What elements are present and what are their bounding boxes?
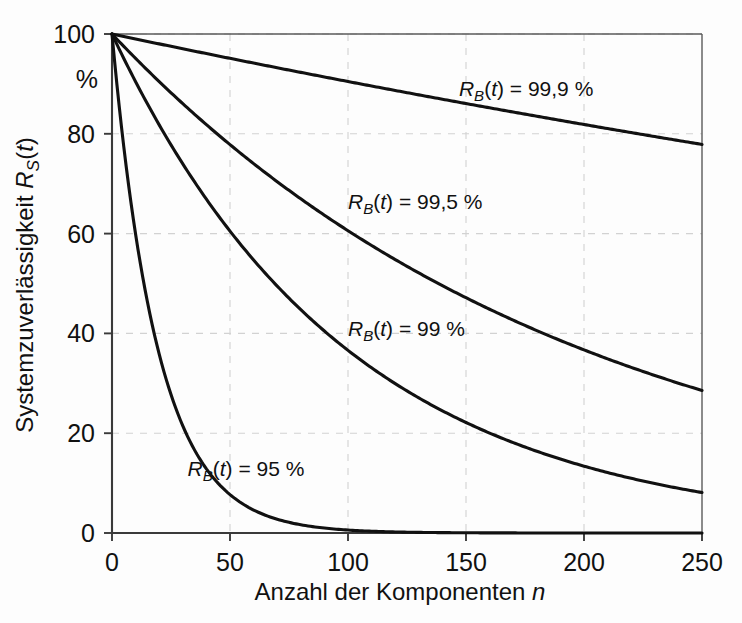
y-tick-label: 40 (67, 319, 95, 347)
x-tick-label: 150 (445, 548, 487, 576)
x-tick-label: 100 (327, 548, 369, 576)
y-axis-unit-label: % (76, 65, 98, 93)
y-tick-label: 20 (67, 419, 95, 447)
x-tick-label: 50 (216, 548, 244, 576)
y-tick-label: 80 (67, 120, 95, 148)
x-tick-label: 0 (105, 548, 119, 576)
x-axis-title: Anzahl der Komponenten n (255, 578, 546, 605)
y-tick-label: 60 (67, 220, 95, 248)
x-tick-label: 250 (681, 548, 723, 576)
reliability-line-chart: 020406080100050100150200250 RB(t) = 99,9… (0, 0, 742, 623)
y-tick-label: 0 (81, 519, 95, 547)
x-tick-label: 200 (563, 548, 605, 576)
y-tick-label: 100 (53, 20, 95, 48)
chart-figure: 020406080100050100150200250 RB(t) = 99,9… (0, 0, 742, 623)
